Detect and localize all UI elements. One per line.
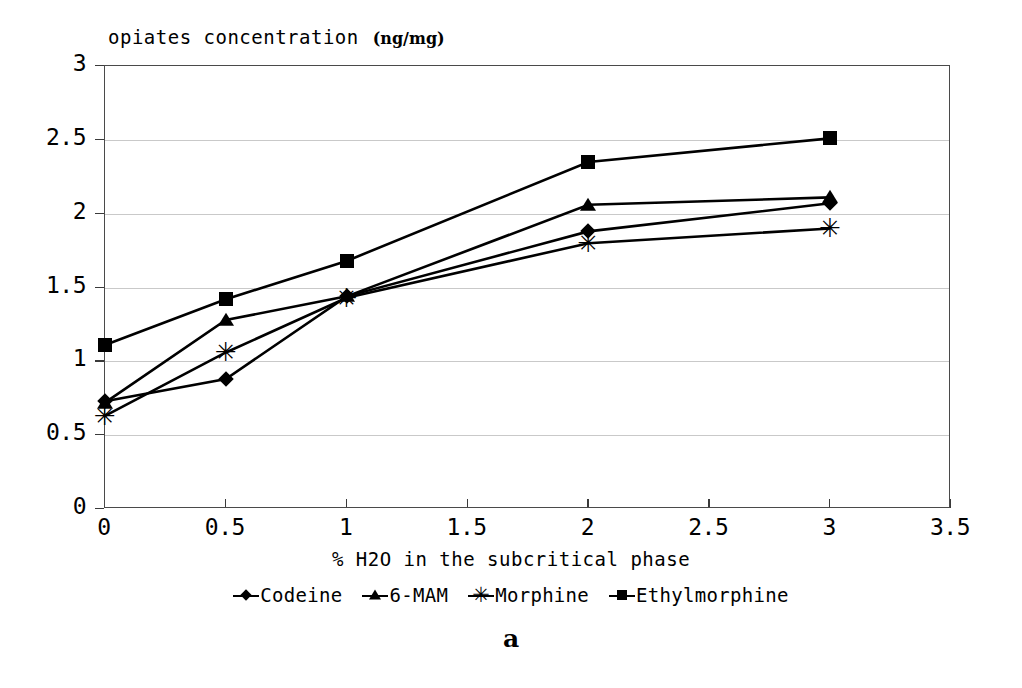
y-tick-mark <box>95 213 104 214</box>
legend-line-segment <box>233 595 259 597</box>
chart-title-unit: (ng/mg) <box>373 29 445 48</box>
x-tick-label: 3 <box>789 514 869 540</box>
series-line-codeine <box>105 203 830 401</box>
legend-label: Ethylmorphine <box>636 584 789 606</box>
chart-title: opiates concentration(ng/mg) <box>108 26 445 48</box>
y-tick-label: 0.5 <box>16 419 86 445</box>
chart-legend: Codeine6-MAM✳MorphineEthylmorphine <box>0 584 1022 606</box>
figure-container: opiates concentration(ng/mg) 00.511.522.… <box>0 0 1022 688</box>
legend-item-morphine[interactable]: ✳Morphine <box>468 584 589 606</box>
legend-item-6-mam[interactable]: 6-MAM <box>362 584 448 606</box>
y-tick-mark <box>95 360 104 361</box>
y-tick-label: 3 <box>16 50 86 76</box>
y-tick-label: 2 <box>16 198 86 224</box>
legend-swatch <box>233 587 259 603</box>
x-tick-label: 3.5 <box>910 514 990 540</box>
x-tick-label: 0 <box>64 514 144 540</box>
series-line-morphine <box>105 228 830 416</box>
legend-swatch <box>609 587 635 603</box>
x-tick-label: 1.5 <box>427 514 507 540</box>
y-tick-mark <box>95 139 104 140</box>
legend-line-segment <box>468 595 494 597</box>
legend-item-ethylmorphine[interactable]: Ethylmorphine <box>609 584 789 606</box>
series-line-ethylmorphine <box>105 138 830 345</box>
x-tick-label: 0.5 <box>185 514 265 540</box>
legend-label: Codeine <box>260 584 342 606</box>
legend-swatch: ✳ <box>468 587 494 603</box>
legend-label: 6-MAM <box>389 584 448 606</box>
x-axis-label: % H2O in the subcritical phase <box>0 548 1022 570</box>
plot-area: ✳✳✳✳✳ <box>104 65 950 508</box>
legend-line-segment <box>609 595 635 597</box>
y-tick-label: 1 <box>16 345 86 371</box>
y-tick-label: 1.5 <box>16 272 86 298</box>
y-tick-mark <box>95 287 104 288</box>
x-tick-label: 1 <box>306 514 386 540</box>
series-line-6-mam <box>105 197 830 402</box>
y-tick-label: 2.5 <box>16 124 86 150</box>
y-tick-mark <box>95 434 104 435</box>
series-lines <box>105 66 951 509</box>
legend-label: Morphine <box>495 584 589 606</box>
legend-swatch <box>362 587 388 603</box>
legend-item-codeine[interactable]: Codeine <box>233 584 342 606</box>
y-tick-mark <box>95 508 104 509</box>
x-tick-label: 2.5 <box>668 514 748 540</box>
y-tick-mark <box>95 65 104 66</box>
x-tick-label: 2 <box>547 514 627 540</box>
legend-line-segment <box>362 595 388 597</box>
figure-caption: a <box>0 624 1022 653</box>
chart-title-main: opiates concentration <box>108 26 359 48</box>
